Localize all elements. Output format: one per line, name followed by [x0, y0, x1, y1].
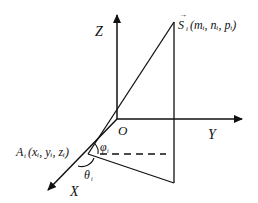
point-s-label: S — [178, 18, 184, 32]
theta-angle-arc — [78, 158, 94, 167]
y-axis-label: Y — [208, 127, 218, 142]
line-a-to-foot — [88, 154, 174, 183]
origin-label: O — [118, 123, 128, 138]
x-axis-label: X — [69, 184, 79, 199]
theta-subscript: i — [91, 176, 93, 182]
point-s-coords: (mᵢ, nᵢ, pᵢ) — [190, 18, 236, 32]
point-a-subscript: i — [24, 152, 26, 160]
diagram-canvas: Z Y X O → S i (mᵢ, nᵢ, pᵢ) A i (xᵢ, yᵢ, … — [0, 0, 258, 203]
theta-label: θ — [84, 168, 90, 182]
phi-angle-arc — [95, 144, 98, 154]
line-a-to-s — [88, 22, 174, 154]
phi-label: φ — [100, 140, 107, 154]
z-axis-label: Z — [95, 24, 103, 39]
point-a-label: A — [15, 145, 24, 159]
point-a-coords: (xᵢ, yᵢ, zᵢ) — [28, 145, 69, 159]
phi-subscript: i — [107, 148, 109, 154]
point-s-subscript: i — [186, 25, 188, 33]
